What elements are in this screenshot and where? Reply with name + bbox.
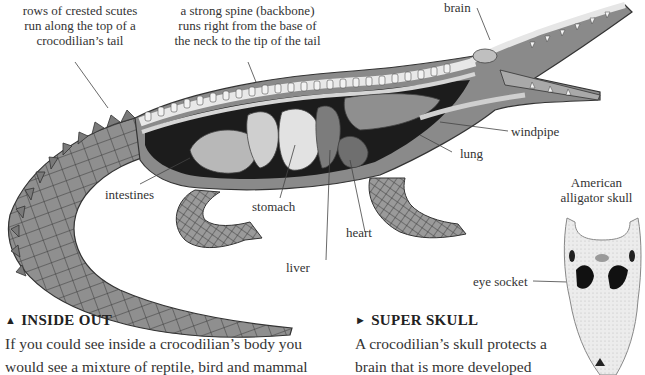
scutes-caption-line: crocodilian’s tail [5, 33, 155, 48]
brain-organ [473, 49, 497, 63]
inside-out-title: INSIDE OUT [21, 312, 112, 328]
stomach-label: stomach [252, 199, 295, 214]
hind-leg [176, 190, 262, 248]
eye-socket-label: eye socket [473, 274, 528, 289]
super-skull-line: A crocodilian’s skull protects a [355, 332, 547, 355]
super-skull-line: brain that is more developed [355, 355, 547, 375]
intestines-label: intestines [105, 187, 154, 202]
scutes-caption-line: run along the top of a [5, 18, 155, 33]
alligator-skull [564, 218, 641, 375]
triangle-up-icon: ▲ [5, 314, 16, 326]
fore-leg [369, 178, 466, 238]
inside-out-line: If you could see inside a crocodilian’s … [5, 332, 308, 355]
inside-out-heading: ▲INSIDE OUT [5, 312, 112, 329]
spine-caption: a strong spine (backbone) runs right fro… [165, 3, 330, 48]
heart-label: heart [346, 225, 372, 240]
scutes-caption-line: rows of crested scutes [5, 3, 155, 18]
spine-caption-line: a strong spine (backbone) [165, 3, 330, 18]
inside-out-line: would see a mixture of reptile, bird and… [5, 355, 308, 375]
super-skull-heading: ►SUPER SKULL [355, 312, 478, 329]
spine-caption-line: the neck to the tip of the tail [165, 33, 330, 48]
spine-caption-line: runs right from the base of [165, 18, 330, 33]
super-skull-body: A crocodilian’s skull protects a brain t… [355, 332, 547, 375]
skull-caption: American alligator skull [548, 175, 645, 205]
scutes-caption: rows of crested scutes run along the top… [5, 3, 155, 48]
windpipe-label: windpipe [511, 124, 559, 139]
brain-label: brain [444, 0, 471, 15]
super-skull-title: SUPER SKULL [371, 312, 478, 328]
lung-label: lung [460, 146, 483, 161]
skull-caption-line: American [548, 175, 645, 190]
skull-caption-line: alligator skull [548, 190, 645, 205]
inside-out-body: If you could see inside a crocodilian’s … [5, 332, 308, 375]
triangle-right-icon: ► [355, 314, 366, 326]
liver-label: liver [286, 260, 310, 275]
